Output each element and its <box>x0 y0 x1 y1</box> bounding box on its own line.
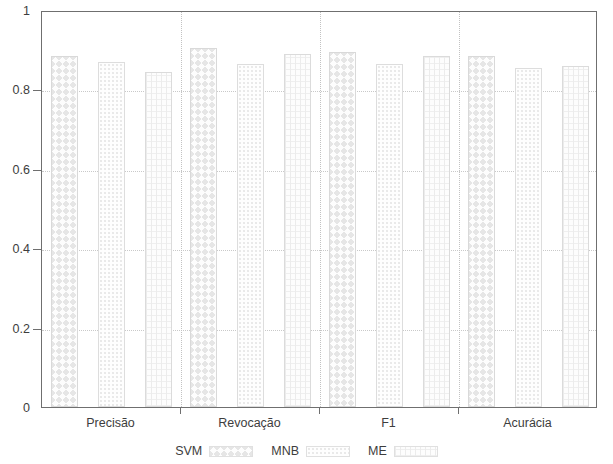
plot-area <box>41 11 597 408</box>
legend-swatch-me <box>394 446 438 457</box>
group-separator <box>181 12 182 407</box>
y-tick-0.4 <box>33 249 41 250</box>
x-axis-label-1: Revocação <box>218 417 281 430</box>
legend-entry-me[interactable]: ME <box>368 445 438 458</box>
plot-inner <box>42 12 596 407</box>
bar-mnb-0 <box>98 62 125 407</box>
bar-me-0 <box>145 72 172 407</box>
group-separator <box>459 12 460 407</box>
legend-swatch-mnb <box>306 446 350 457</box>
y-tick-0.6 <box>33 170 41 171</box>
gridline-y-0.4 <box>42 250 596 251</box>
bar-svm-2 <box>329 52 356 407</box>
x-tick <box>180 408 181 414</box>
chart-legend: SVMMNBME <box>0 440 613 462</box>
y-tick-label: 0.8 <box>0 84 30 97</box>
y-tick-label: 1 <box>0 5 30 18</box>
group-separator <box>320 12 321 407</box>
y-tick-label: 0.6 <box>0 164 30 177</box>
bar-me-1 <box>284 54 311 407</box>
bar-chart-figure: 00.20.40.60.81 PrecisãoRevocaçãoF1Acurác… <box>0 0 613 464</box>
bar-mnb-1 <box>237 64 264 407</box>
gridline-y-0.8 <box>42 91 596 92</box>
x-axis-label-3: Acurácia <box>503 417 552 430</box>
bar-svm-1 <box>190 48 217 407</box>
legend-entry-svm[interactable]: SVM <box>175 445 253 458</box>
gridline-y-0.2 <box>42 330 596 331</box>
bar-svm-3 <box>468 56 495 407</box>
y-tick-label: 0.2 <box>0 323 30 336</box>
x-axis-label-2: F1 <box>381 417 396 430</box>
bar-mnb-3 <box>515 68 542 407</box>
gridline-y-0.6 <box>42 171 596 172</box>
x-tick <box>458 408 459 414</box>
bar-svm-0 <box>51 56 78 407</box>
x-axis-label-0: Precisão <box>86 417 135 430</box>
legend-entry-mnb[interactable]: MNB <box>271 445 350 458</box>
bar-me-2 <box>423 56 450 407</box>
bar-me-3 <box>562 66 589 407</box>
legend-label-svm: SVM <box>175 445 202 458</box>
y-tick-label: 0.4 <box>0 243 30 256</box>
bar-mnb-2 <box>376 64 403 407</box>
legend-label-me: ME <box>368 445 387 458</box>
y-tick-0.2 <box>33 329 41 330</box>
legend-label-mnb: MNB <box>271 445 299 458</box>
x-tick <box>319 408 320 414</box>
y-tick-0.8 <box>33 90 41 91</box>
y-tick-label: 0 <box>0 402 30 415</box>
legend-swatch-svm <box>209 446 253 457</box>
